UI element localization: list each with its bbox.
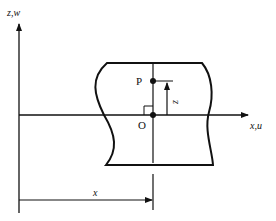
x-distance-label: x — [92, 187, 98, 198]
point-p-label: P — [136, 75, 142, 87]
vertical-axis-label: z,w — [6, 7, 20, 18]
z-offset-label: z — [169, 100, 180, 105]
horizontal-axis-label: x,u — [249, 120, 262, 131]
point-o-label: O — [138, 119, 146, 131]
diagram-svg: z,w x,u P O z x — [0, 0, 276, 221]
point-o — [150, 112, 156, 118]
diagram-canvas: z,w x,u P O z x — [0, 0, 276, 221]
